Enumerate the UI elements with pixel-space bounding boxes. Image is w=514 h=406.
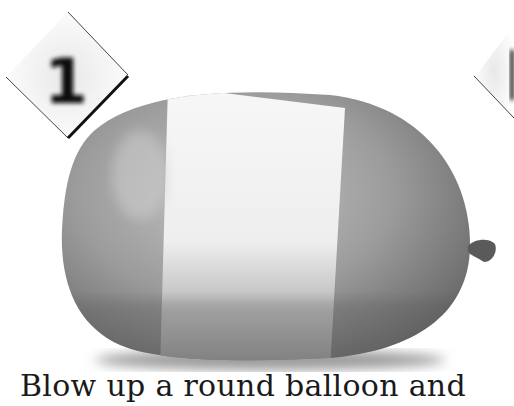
step-number: 1 — [44, 45, 87, 118]
balloon — [60, 86, 480, 370]
next-step-badge — [474, 25, 514, 118]
step-badge: 1 — [6, 12, 128, 138]
balloon-knot — [468, 240, 496, 262]
instruction-caption: Blow up a round balloon and — [20, 366, 466, 406]
